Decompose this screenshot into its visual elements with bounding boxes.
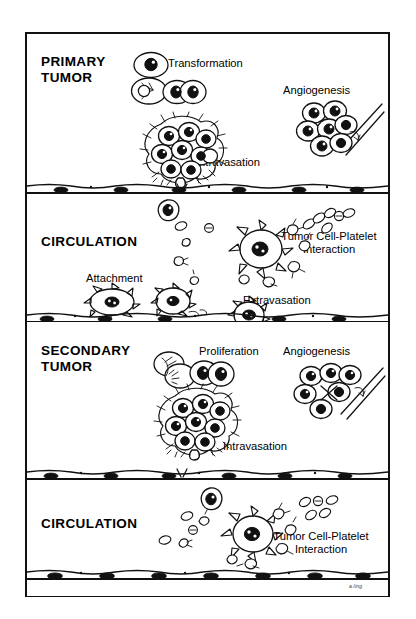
figure-frame: PRIMARY TUMOR Transformation Angiogenesi… bbox=[25, 32, 390, 597]
primary-tumor-mass bbox=[131, 112, 243, 188]
angiogenesis-cluster-secondary bbox=[293, 360, 387, 422]
platelet-cluster-lower bbox=[295, 494, 353, 524]
heading-primary-tumor: PRIMARY TUMOR bbox=[41, 54, 106, 85]
secondary-tumor-mass bbox=[145, 382, 255, 458]
heading-circulation-lower: CIRCULATION bbox=[41, 516, 137, 532]
vessel-wall-4 bbox=[27, 566, 388, 582]
band-secondary-tumor: SECONDARY TUMOR Proliferation Angiogenes… bbox=[27, 322, 388, 472]
tumor-platelet-aggregate-lower bbox=[213, 502, 305, 566]
angiogenesis-cluster-primary bbox=[294, 98, 386, 160]
band-circulation-lower: CIRCULATION Tumor Cell-Platelet Interact… bbox=[27, 480, 388, 572]
band-bottom-tissue bbox=[27, 582, 388, 596]
heading-secondary-tumor: SECONDARY TUMOR bbox=[41, 343, 130, 374]
band-circulation-upper: CIRCULATION Tumor Cell-Platelet Interact… bbox=[27, 194, 388, 316]
label-angiogenesis-secondary: Angiogenesis bbox=[283, 345, 350, 358]
transformation-cell-group bbox=[131, 52, 205, 110]
artist-signature: a.ling bbox=[349, 583, 362, 589]
label-attachment: Attachment bbox=[86, 272, 143, 285]
label-angiogenesis: Angiogenesis bbox=[283, 84, 350, 97]
band-primary-tumor: PRIMARY TUMOR Transformation Angiogenesi… bbox=[27, 34, 388, 186]
heading-circulation-upper: CIRCULATION bbox=[41, 234, 137, 250]
platelet-cluster-upper bbox=[299, 206, 359, 238]
